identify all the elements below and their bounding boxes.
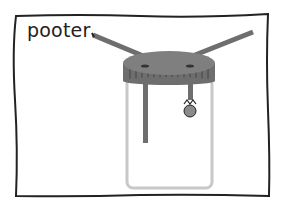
lid: [123, 51, 215, 85]
inner-tube-left: [143, 78, 148, 143]
jar: [127, 78, 212, 188]
diagram-title: pooter: [27, 19, 90, 41]
